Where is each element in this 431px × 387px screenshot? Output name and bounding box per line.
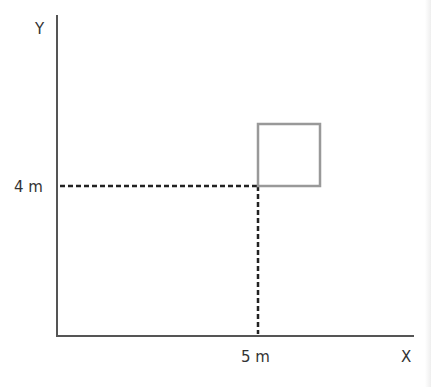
x-axis-label: X (401, 348, 411, 366)
x-tick-label: 5 m (241, 348, 270, 366)
square-object (258, 124, 320, 186)
y-tick-label: 4 m (14, 178, 43, 196)
coordinate-diagram: Y X 4 m 5 m (0, 0, 431, 387)
y-axis-label: Y (34, 20, 45, 38)
